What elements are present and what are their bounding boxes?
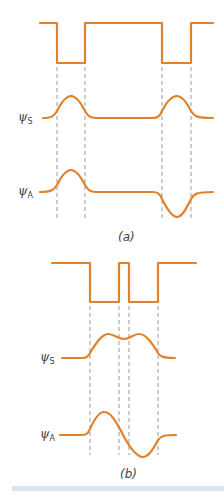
- psi-a-curve-a: [40, 170, 213, 217]
- well-boundaries-b: [90, 306, 158, 455]
- psi-a-curve-b: [60, 412, 176, 457]
- psi-s-curve-a: [43, 96, 213, 118]
- potential-wells-b: [52, 263, 196, 302]
- psi-a-label-b: ψA: [40, 427, 55, 443]
- figure-divider-bar: [12, 486, 224, 491]
- diagram-canvas: ψS ψA (a) ψS ψA (b): [0, 0, 224, 502]
- psi-s-label-b: ψS: [40, 350, 55, 366]
- panel-a: ψS ψA (a): [18, 23, 213, 244]
- caption-b: (b): [120, 467, 137, 481]
- caption-a: (a): [118, 230, 135, 244]
- psi-s-label-a: ψS: [18, 110, 33, 126]
- panel-b: ψS ψA (b): [40, 263, 196, 481]
- potential-wells-a: [40, 23, 213, 63]
- well-boundaries-a: [57, 67, 191, 218]
- psi-a-label-a: ψA: [18, 184, 33, 200]
